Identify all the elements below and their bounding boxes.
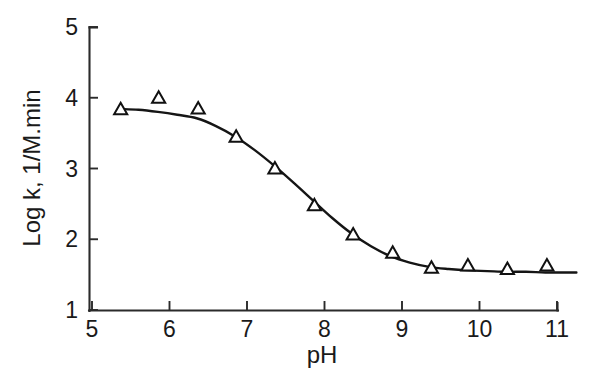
chart-canvas: 12345 567891011 pH Log k, 1/M.min [0, 0, 605, 390]
x-tick-marks [92, 301, 557, 311]
x-tick-label-10: 10 [467, 316, 493, 342]
y-tick-label-4: 4 [65, 85, 78, 111]
y-tick-labels: 12345 [65, 14, 78, 323]
fitted-sigmoid-curve [121, 109, 577, 272]
axes-group [89, 27, 558, 311]
x-tick-label-9: 9 [396, 316, 409, 342]
x-tick-label-11: 11 [545, 316, 569, 342]
y-tick-label-5: 5 [65, 14, 78, 40]
x-tick-labels: 567891011 [86, 316, 569, 342]
x-tick-label-6: 6 [163, 316, 176, 342]
data-point-marker [386, 246, 399, 257]
data-point-marker [152, 91, 165, 102]
y-axis-title: Log k, 1/M.min [18, 89, 45, 246]
data-point-marker [461, 259, 474, 270]
x-tick-label-5: 5 [86, 316, 99, 342]
data-point-marker [501, 263, 514, 274]
x-tick-label-8: 8 [318, 316, 331, 342]
y-tick-label-1: 1 [65, 297, 78, 323]
y-tick-label-2: 2 [65, 226, 78, 252]
data-point-markers [114, 91, 553, 274]
data-point-marker [192, 102, 205, 113]
x-axis-title: pH [307, 341, 338, 368]
data-point-marker [347, 228, 360, 239]
y-tick-label-3: 3 [65, 156, 78, 182]
data-point-marker [540, 259, 553, 270]
y-tick-marks [90, 27, 99, 310]
x-tick-label-7: 7 [241, 316, 254, 342]
data-point-marker [230, 130, 243, 141]
chart-figure: 12345 567891011 pH Log k, 1/M.min [0, 0, 605, 390]
